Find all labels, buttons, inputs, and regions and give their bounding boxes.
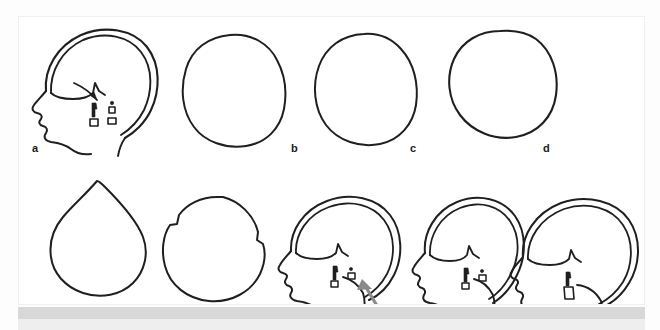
panel-g [271,189,421,305]
panel-b [174,29,304,154]
landmark-dot-g [349,267,352,270]
figure-root: a b c d e [0,0,660,330]
scalp-outer-contour-i [523,199,638,305]
facial-profile [33,91,91,154]
landmark-dot-h [480,269,483,272]
cranial-outline-b [183,35,286,147]
panel-c [304,29,434,154]
anterior-cranial-base-g [296,244,348,259]
bottom-band [18,307,645,319]
panel-a-drawing [21,17,171,157]
figure-card: a b c d e [18,16,645,305]
landmark-lower-h [479,275,486,281]
neck-contour [118,138,125,156]
cranial-outline-e [51,181,146,296]
mastoid-mark-i [564,287,574,299]
scalp-outer-contour-g [291,197,400,300]
bottom-band-lower [18,319,645,330]
cranial-outline-c [315,34,417,145]
ear-canal-mark-g [333,266,338,280]
cranial-outline-d [449,31,556,138]
panel-g-drawing [271,189,421,305]
panel-i [501,189,645,305]
panel-b-drawing [174,29,304,154]
ear-canal-mark-i [566,272,571,286]
occiput-arrow-head [357,279,372,290]
anterior-cranial-base-i [528,250,581,265]
anterior-cranial-base-h [430,246,479,261]
panel-c-drawing [304,29,434,154]
scalp-outer-contour [46,30,158,138]
mastoid-mark [90,119,98,126]
panel-label-d: d [543,143,550,154]
skull-inner-table-g [296,203,393,297]
occiput-neck-contour-h [474,279,495,305]
panel-d-drawing [434,25,574,155]
panel-label-a: a [32,143,38,154]
landmark-dot [110,101,113,104]
panel-e-drawing [41,175,171,305]
panel-e [41,175,171,305]
panel-f [157,191,287,305]
panel-f-drawing [157,191,287,305]
panel-a [21,17,171,157]
ear-canal-mark [92,103,97,117]
mastoid-mark-g [331,281,338,287]
occiput-neck-contour-i [577,285,603,305]
mastoid-mark-h [462,283,469,289]
landmark-upper [109,107,115,113]
panel-i-drawing [501,189,645,305]
skull-inner-table-i [528,206,631,304]
skull-inner-table [51,36,150,135]
cranial-outline-f [163,197,265,301]
panel-d [434,25,574,155]
landmark-lower-g [348,273,355,279]
panel-label-c: c [410,143,416,154]
ear-canal-mark-h [464,268,469,282]
landmark-lower [108,118,116,124]
panel-label-b: b [291,143,298,154]
